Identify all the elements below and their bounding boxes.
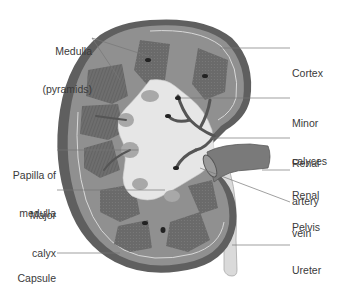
label-capsule: Capsule bbox=[0, 247, 56, 292]
kidney-diagram: Medulla (pyramids) Papilla of medulla Ma… bbox=[0, 0, 340, 292]
label-ureter: Ureter bbox=[292, 239, 321, 292]
label-medulla: Medulla (pyramids) bbox=[40, 20, 92, 120]
